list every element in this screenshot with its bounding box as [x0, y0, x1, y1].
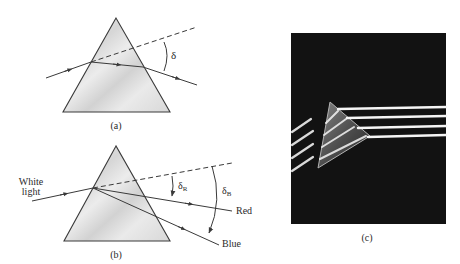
caption-b: (b)	[110, 249, 122, 261]
panel-b: δR δB White light Red Blue (b)	[19, 146, 252, 261]
arrow-icon	[64, 70, 70, 72]
caption-a: (a)	[110, 120, 121, 132]
prism-a	[63, 18, 170, 112]
deviation-arc-a	[164, 42, 167, 71]
red-label: Red	[236, 205, 252, 216]
delta-r-label: δR	[178, 180, 188, 193]
red-deviation-arc	[172, 176, 173, 196]
arrow-icon	[113, 64, 119, 65]
caption-c: (c)	[361, 232, 372, 244]
arrow-icon	[178, 227, 184, 230]
blue-label: Blue	[222, 238, 241, 249]
panel-c: (c)	[291, 33, 446, 244]
arrow-icon	[172, 77, 178, 79]
blue-deviation-arc	[209, 166, 217, 233]
arrow-icon	[185, 203, 191, 204]
delta-label-a: δ	[171, 49, 176, 61]
arrow-icon	[60, 194, 66, 195]
white-light-label-line2: light	[22, 186, 41, 197]
panel-a: δ (a)	[46, 18, 197, 132]
figure-canvas: δ (a) δR δB White light Red Blue (b)	[0, 0, 460, 264]
delta-b-label: δB	[222, 185, 232, 198]
prism-b	[64, 146, 170, 241]
